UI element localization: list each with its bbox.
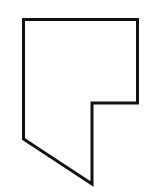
notched-polygon-outline [24, 20, 138, 185]
diagram-canvas [0, 0, 144, 187]
